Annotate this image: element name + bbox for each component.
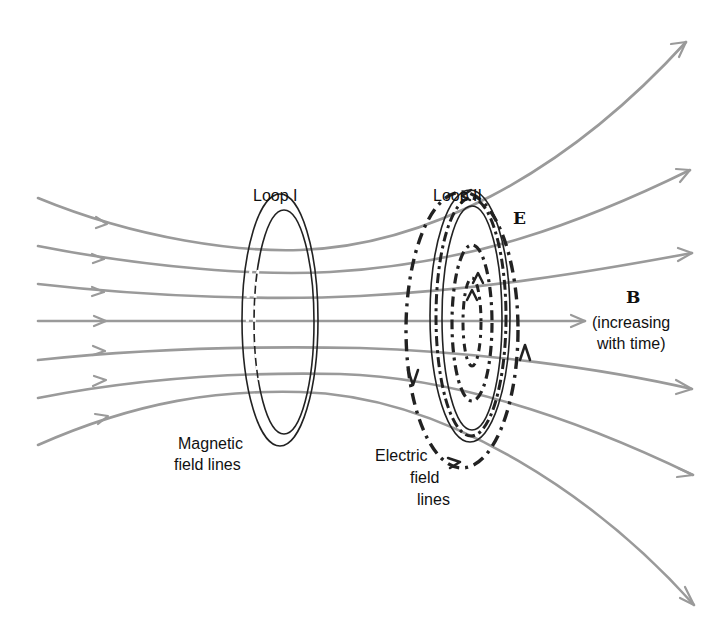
b-note-line-2: with time) (597, 334, 665, 353)
e-field-label: E (513, 209, 526, 228)
electric-label-line-3: lines (417, 490, 450, 509)
b-field-label: B (626, 288, 640, 307)
loop-1-label: Loop I (253, 186, 297, 205)
field-line-3 (38, 253, 692, 298)
magnetic-label-line-2: field lines (174, 455, 241, 474)
electric-field-arrows (408, 190, 530, 468)
b-note-line-1: (increasing (592, 313, 670, 332)
magnetic-label-line-1: Magnetic (178, 434, 243, 453)
loop-2-label: Loop II (433, 186, 482, 205)
field-line-1 (38, 42, 686, 250)
electric-label-line-2: field (410, 468, 439, 487)
field-line-7 (38, 392, 694, 605)
electric-label-line-1: Electric (375, 446, 427, 465)
field-line-2 (38, 170, 690, 273)
loop-2 (406, 190, 518, 468)
field-line-6 (38, 374, 693, 475)
electric-loop-inner-1 (452, 245, 492, 401)
